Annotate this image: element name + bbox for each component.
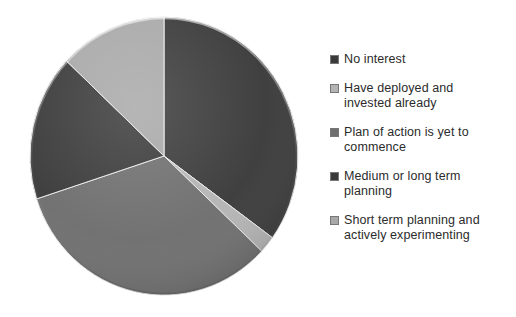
pie-graphic xyxy=(0,0,320,317)
legend-item-short-term[interactable]: Short term planning and actively experim… xyxy=(330,213,510,243)
legend-item-have-deployed[interactable]: Have deployed and invested already xyxy=(330,81,510,111)
legend-item-plan-of-action[interactable]: Plan of action is yet to commence xyxy=(330,125,510,155)
legend: No interest Have deployed and invested a… xyxy=(330,52,510,257)
legend-item-medium-long-term[interactable]: Medium or long term planning xyxy=(330,169,510,199)
pie-chart-figure: No interest Have deployed and invested a… xyxy=(0,0,516,317)
legend-swatch-icon xyxy=(330,172,339,181)
legend-item-label: Medium or long term planning xyxy=(344,169,504,199)
legend-swatch-icon xyxy=(330,55,339,64)
legend-item-no-interest[interactable]: No interest xyxy=(330,52,510,67)
legend-item-label: Plan of action is yet to commence xyxy=(344,125,504,155)
legend-item-label: No interest xyxy=(344,52,406,67)
legend-swatch-icon xyxy=(330,216,339,225)
legend-swatch-icon xyxy=(330,84,339,93)
pie-plot-area xyxy=(0,0,320,317)
legend-swatch-icon xyxy=(330,128,339,137)
legend-item-label: Short term planning and actively experim… xyxy=(344,213,504,243)
legend-item-label: Have deployed and invested already xyxy=(344,81,504,111)
